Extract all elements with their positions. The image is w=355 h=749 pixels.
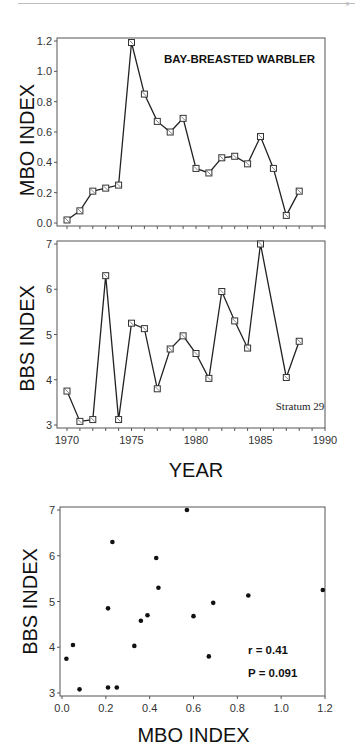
scatter-point xyxy=(154,556,159,561)
y-tick-label: 6 xyxy=(46,283,52,295)
x-tick-label: 1975 xyxy=(119,434,143,446)
mbo-line xyxy=(67,43,299,220)
y-tick-label: 7 xyxy=(46,238,52,250)
x-axis-title: YEAR xyxy=(169,459,223,481)
x-tick-label: 0.4 xyxy=(142,702,157,714)
scatter-point xyxy=(106,685,111,690)
scatter-point xyxy=(132,644,137,649)
p-value: P = 0.091 xyxy=(248,667,298,679)
correlation-r: r = 0.41 xyxy=(248,644,289,656)
scatter-point xyxy=(321,588,326,593)
y-axis-title: BBS INDEX xyxy=(19,548,41,655)
scatter-point xyxy=(145,613,150,618)
scatter-point xyxy=(191,614,196,619)
scatter-point xyxy=(71,643,76,648)
bbs-timeseries: 34567BBS INDEX19701975198019851990YEARSt… xyxy=(16,238,337,481)
x-tick-label: 1990 xyxy=(313,434,337,446)
stratum-label: Stratum 29 xyxy=(276,400,325,412)
y-tick-label: 3 xyxy=(49,687,55,699)
x-tick-label: 1.0 xyxy=(274,702,289,714)
mbo-timeseries: 0.00.20.40.60.81.01.2MBO INDEXBAY-BREAST… xyxy=(16,35,325,229)
x-tick-label: 1.2 xyxy=(317,702,332,714)
y-tick-label: 0.8 xyxy=(37,96,52,108)
y-tick-label: 1.2 xyxy=(37,35,52,47)
x-tick-label: 1970 xyxy=(55,434,79,446)
species-title: BAY-BREASTED WARBLER xyxy=(164,53,316,65)
y-axis-title: MBO INDEX xyxy=(16,84,38,196)
y-tick-label: 1.0 xyxy=(37,65,52,77)
scatter-point xyxy=(211,601,216,606)
scatter-plot: 34567BBS INDEX0.00.20.40.60.81.01.2MBO I… xyxy=(19,504,333,746)
scatter-point xyxy=(156,585,161,590)
y-tick-label: 7 xyxy=(49,504,55,516)
x-tick-label: 0.2 xyxy=(98,702,113,714)
x-tick-label: 1980 xyxy=(184,434,208,446)
x-tick-label: 0.8 xyxy=(230,702,245,714)
scatter-point xyxy=(110,540,115,545)
scatter-point xyxy=(246,593,251,598)
y-tick-label: 0.0 xyxy=(37,217,52,229)
x-tick-label: 0.0 xyxy=(54,702,69,714)
x-tick-label: 0.6 xyxy=(186,702,201,714)
scatter-point xyxy=(207,654,212,659)
y-axis-title: BBS INDEX xyxy=(16,285,38,392)
y-tick-label: 6 xyxy=(49,550,55,562)
y-tick-label: 0.6 xyxy=(37,126,52,138)
y-tick-label: 0.4 xyxy=(37,156,52,168)
figure: 0.00.20.40.60.81.01.2MBO INDEXBAY-BREAST… xyxy=(0,0,355,749)
scatter-point xyxy=(77,687,82,692)
plot-frame xyxy=(57,38,325,226)
y-tick-label: 5 xyxy=(46,329,52,341)
scatter-point xyxy=(139,618,144,623)
scatter-point xyxy=(185,508,190,513)
y-tick-label: 5 xyxy=(49,596,55,608)
y-tick-label: 3 xyxy=(46,419,52,431)
scatter-point xyxy=(114,685,119,690)
x-axis-title: MBO INDEX xyxy=(137,724,249,746)
x-tick-label: 1985 xyxy=(248,434,272,446)
y-tick-label: 4 xyxy=(49,641,55,653)
y-tick-label: 0.2 xyxy=(37,187,52,199)
scatter-point xyxy=(64,656,69,661)
y-tick-label: 4 xyxy=(46,374,52,386)
scatter-point xyxy=(106,606,111,611)
